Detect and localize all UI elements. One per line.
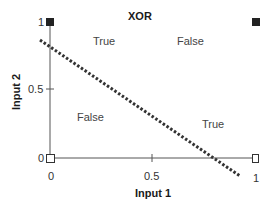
x-axis-title: Input 1	[135, 187, 171, 199]
x-tick-label-05: 0.5	[144, 170, 159, 182]
point-0-1-filled-square	[46, 18, 54, 26]
region-label-true-top-left: True	[93, 35, 115, 47]
point-1-1-filled-square	[252, 18, 260, 26]
y-axis-title: Input 2	[10, 74, 22, 110]
point-0-0-open-square	[47, 155, 55, 163]
chart-title: XOR	[128, 10, 152, 22]
x-tick-label-0: 0	[48, 170, 54, 182]
y-tick-label-1: 1	[38, 16, 44, 28]
region-label-false-bottom-left: False	[77, 111, 104, 123]
point-1-0-open-square	[253, 155, 259, 163]
decision-boundary-line	[40, 40, 240, 176]
y-tick-label-05: 0.5	[28, 83, 43, 95]
x-tick-label-1: 1	[253, 172, 259, 184]
y-tick-label-0: 0	[38, 152, 44, 164]
region-label-false-top-right: False	[177, 35, 204, 47]
region-label-true-bottom-right: True	[202, 118, 224, 130]
xor-plot	[0, 0, 270, 210]
